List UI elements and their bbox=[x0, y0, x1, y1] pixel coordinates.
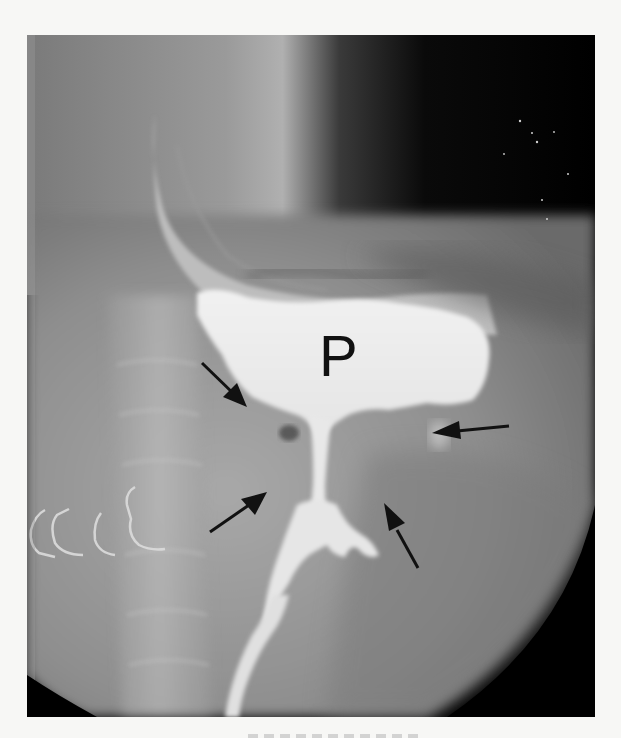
dark-focus bbox=[279, 425, 299, 441]
radiograph-image: P bbox=[27, 35, 595, 717]
radiograph-canvas bbox=[27, 35, 595, 717]
pouch-label: P bbox=[319, 327, 358, 385]
spine bbox=[107, 295, 212, 717]
page: P bbox=[0, 0, 621, 738]
film-edge bbox=[27, 35, 35, 717]
truncated-caption bbox=[248, 734, 418, 738]
